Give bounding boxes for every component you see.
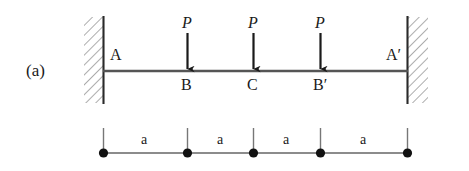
load-label-B: P bbox=[182, 15, 192, 31]
dimension-label-2: a bbox=[217, 133, 223, 147]
dimension-node-dot-B bbox=[183, 148, 192, 157]
dimension-label-3: a bbox=[283, 133, 289, 147]
beam-diagram-figure: (a) A B C B′ A′ P P P a a a a bbox=[0, 0, 469, 171]
dimension-label-4: a bbox=[360, 133, 366, 147]
support-right-fixed bbox=[408, 16, 429, 104]
figure-label: (a) bbox=[26, 62, 45, 79]
dimension-node-dot-A bbox=[99, 148, 108, 157]
node-label-Aprime: A′ bbox=[386, 47, 401, 63]
node-label-A: A bbox=[110, 47, 122, 63]
load-label-C: P bbox=[248, 15, 258, 31]
node-label-C: C bbox=[247, 77, 258, 93]
support-right-hatch bbox=[408, 17, 428, 103]
dimension-label-1: a bbox=[141, 133, 147, 147]
dimension-node-dot-Aprime bbox=[403, 148, 412, 157]
support-left-fixed bbox=[84, 16, 104, 104]
dimension-node-dot-C bbox=[249, 148, 258, 157]
node-label-B: B bbox=[181, 77, 192, 93]
node-label-Bprime: B′ bbox=[313, 77, 327, 93]
dimension-node-dot-Bprime bbox=[316, 148, 325, 157]
beam-diagram-canvas bbox=[0, 0, 469, 171]
support-left-hatch bbox=[84, 17, 103, 103]
load-label-Bprime: P bbox=[315, 15, 325, 31]
